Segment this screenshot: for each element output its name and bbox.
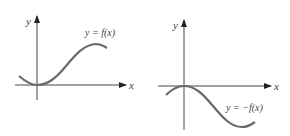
y-axis-label: y [172,19,178,31]
curve-f [19,44,107,85]
x-axis-label: x [128,79,134,91]
curve-label-f: y = f(x) [84,27,116,39]
graph-neg-f: y x y = −f(x) [158,19,279,130]
x-axis-label: x [273,80,279,92]
curve-label-neg-f: y = −f(x) [225,102,263,114]
graph-f: y x y = f(x) [15,15,134,100]
graphs-figure: y x y = f(x) y x y = −f(x) [0,0,290,136]
y-axis-label: y [25,15,31,27]
